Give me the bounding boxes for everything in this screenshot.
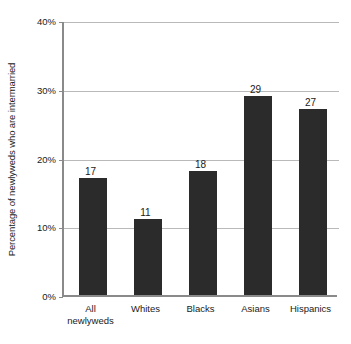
- bar: [299, 109, 327, 295]
- x-axis-category-label: All newlyweds: [61, 303, 121, 326]
- x-axis-category-label: Whites: [116, 303, 176, 315]
- bar-chart: Percentage of newlyweds who are intermar…: [0, 0, 351, 344]
- bar: [189, 171, 217, 295]
- y-axis-tick: [59, 22, 63, 23]
- x-axis-category-label: Blacks: [171, 303, 231, 315]
- bar: [79, 178, 107, 295]
- y-axis-tick: [59, 91, 63, 92]
- x-axis-category-label: Hispanics: [281, 303, 341, 315]
- x-axis-category-label: Asians: [226, 303, 286, 315]
- gridline: [64, 91, 339, 92]
- y-axis-tick-label: 0%: [18, 292, 56, 302]
- bar-value-label: 11: [126, 207, 166, 218]
- bar-value-label: 27: [291, 97, 331, 108]
- y-axis-tick: [59, 297, 63, 298]
- bar-value-label: 29: [236, 84, 276, 95]
- y-axis-tick-label: 40%: [18, 17, 56, 27]
- bar: [134, 219, 162, 295]
- bar-value-label: 17: [71, 166, 111, 177]
- bar-value-label: 18: [181, 159, 221, 170]
- y-axis-tick-label: 20%: [18, 155, 56, 165]
- bar: [244, 96, 272, 295]
- y-axis-tick-label: 30%: [18, 86, 56, 96]
- y-axis-tick: [59, 228, 63, 229]
- y-axis-tick: [59, 160, 63, 161]
- gridline: [64, 22, 339, 23]
- y-axis-tick-label: 10%: [18, 223, 56, 233]
